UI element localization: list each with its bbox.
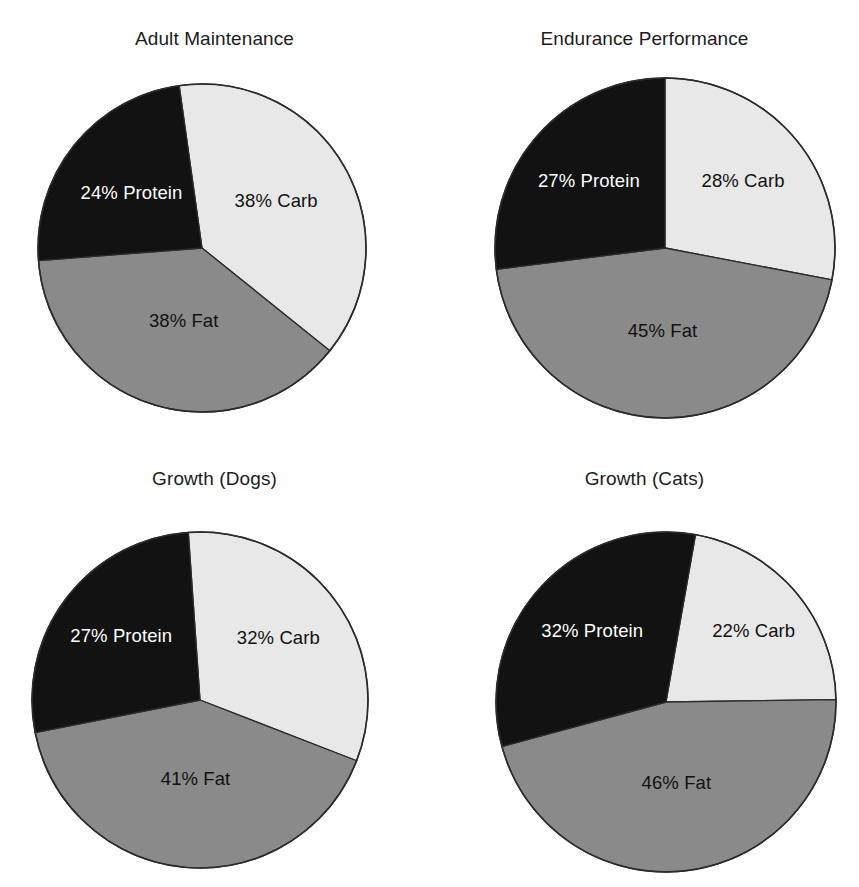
pie-slice-label-protein: 27% Protein: [538, 170, 640, 191]
pie-slice-protein[interactable]: [38, 86, 202, 261]
pie-slice-label-carb: 32% Carb: [237, 627, 320, 648]
pie-slice-label-protein: 24% Protein: [81, 182, 183, 203]
pie-svg-endurance-performance: 28% Carb45% Fat27% Protein: [430, 0, 859, 440]
pie-chart-grid: Adult Maintenance 38% Carb38% Fat24% Pro…: [0, 0, 859, 887]
pie-slice-label-protein: 32% Protein: [541, 620, 643, 641]
pie-svg-growth-cats: 22% Carb46% Fat32% Protein: [430, 447, 859, 887]
chart-panel-endurance-performance: Endurance Performance 28% Carb45% Fat27%…: [430, 0, 859, 440]
pie-svg-adult-maintenance: 38% Carb38% Fat24% Protein: [0, 0, 429, 440]
pie-slice-label-fat: 45% Fat: [628, 320, 698, 341]
pie-growth-cats: 22% Carb46% Fat32% Protein: [430, 447, 859, 887]
pie-slice-label-fat: 41% Fat: [161, 768, 231, 789]
chart-panel-growth-cats: Growth (Cats) 22% Carb46% Fat32% Protein: [430, 447, 859, 887]
pie-svg-growth-dogs: 32% Carb41% Fat27% Protein: [0, 447, 429, 887]
pie-slice-label-carb: 28% Carb: [702, 170, 785, 191]
pie-slice-label-protein: 27% Protein: [70, 625, 172, 646]
chart-panel-adult-maintenance: Adult Maintenance 38% Carb38% Fat24% Pro…: [0, 0, 429, 440]
pie-slice-label-fat: 38% Fat: [149, 310, 219, 331]
pie-slice-label-carb: 22% Carb: [712, 620, 795, 641]
pie-endurance-performance: 28% Carb45% Fat27% Protein: [430, 0, 859, 440]
pie-slice-label-carb: 38% Carb: [235, 190, 318, 211]
pie-adult-maintenance: 38% Carb38% Fat24% Protein: [0, 0, 429, 440]
pie-growth-dogs: 32% Carb41% Fat27% Protein: [0, 447, 429, 887]
chart-panel-growth-dogs: Growth (Dogs) 32% Carb41% Fat27% Protein: [0, 447, 429, 887]
pie-slice-label-fat: 46% Fat: [642, 772, 712, 793]
